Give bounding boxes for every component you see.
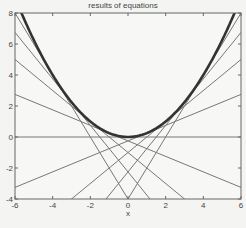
y-tick-label: -2 — [6, 164, 14, 173]
y-tick-label: 4 — [9, 71, 14, 80]
x-axis-label: x — [0, 209, 246, 218]
y-tick-label: 8 — [9, 9, 14, 18]
y-tick-label: 6 — [9, 40, 14, 49]
y-tick-label: 2 — [9, 102, 14, 111]
y-tick-label: 0 — [9, 133, 14, 142]
y-tick-label: -4 — [6, 195, 14, 204]
plot-area: -6-4-20246-4-202468 — [0, 0, 246, 228]
